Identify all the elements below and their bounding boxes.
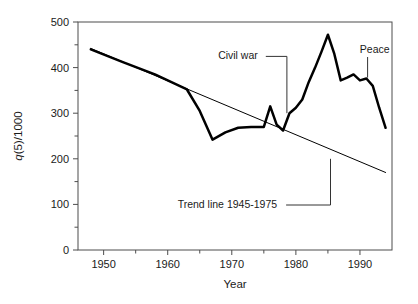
x-axis-tick-labels: 19501960197019801990 bbox=[91, 258, 372, 270]
y-axis-title-rest: (5)/1000 bbox=[12, 111, 24, 154]
leader-civil-war bbox=[266, 56, 287, 113]
y-axis-ticks bbox=[73, 22, 78, 250]
x-tick-label: 1980 bbox=[284, 258, 308, 270]
y-tick-label: 0 bbox=[63, 244, 69, 256]
y-tick-label: 200 bbox=[51, 153, 69, 165]
annotation-leader-lines bbox=[266, 56, 368, 205]
x-tick-label: 1970 bbox=[220, 258, 244, 270]
annotation-trend-line: Trend line 1945-1975 bbox=[178, 198, 278, 210]
y-axis-tick-labels: 0100200300400500 bbox=[51, 16, 69, 256]
y-tick-label: 500 bbox=[51, 16, 69, 28]
annotation-civil-war: Civil war bbox=[218, 49, 258, 61]
x-tick-label: 1960 bbox=[155, 258, 179, 270]
y-tick-label: 400 bbox=[51, 62, 69, 74]
y-axis-title: q(5)/1000 bbox=[12, 111, 24, 160]
y-tick-label: 300 bbox=[51, 107, 69, 119]
annotation-peace: Peace bbox=[360, 43, 390, 55]
leader-trend-line bbox=[286, 159, 330, 205]
x-axis-title: Year bbox=[223, 278, 246, 290]
x-tick-label: 1990 bbox=[348, 258, 372, 270]
x-axis-ticks bbox=[104, 250, 360, 255]
x-tick-label: 1950 bbox=[91, 258, 115, 270]
chart-figure: 0100200300400500 19501960197019801990 Ci… bbox=[0, 0, 418, 304]
y-tick-label: 100 bbox=[51, 198, 69, 210]
chart-canvas: 0100200300400500 19501960197019801990 Ci… bbox=[0, 0, 418, 304]
